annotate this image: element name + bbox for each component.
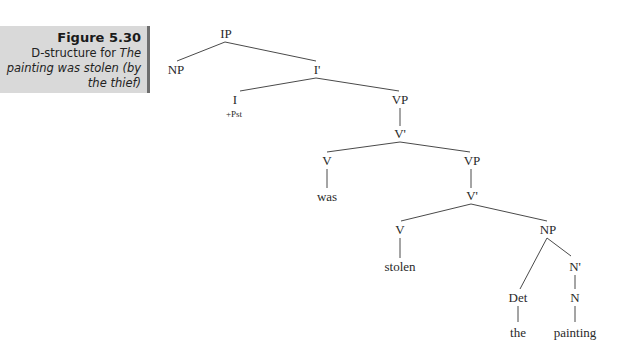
tree-node-np1: NP (168, 62, 185, 77)
tree-node-feat: +Pst (226, 109, 243, 119)
tree-node-vbar2: V' (466, 188, 478, 203)
tree-node-vbar1: V' (394, 126, 406, 141)
tree-node-the: the (510, 325, 526, 340)
tree-node-vp1: VP (392, 92, 409, 107)
tree-node-nbar: N' (569, 259, 581, 274)
tree-node-v1: V (322, 153, 332, 168)
tree-node-vp2: VP (464, 153, 481, 168)
tree-branch (547, 238, 571, 256)
tree-node-was: was (317, 189, 337, 204)
tree-branch (520, 238, 547, 289)
syntax-tree: IPNPI'I+PstVPV'VwasVPV'VstolenNPN'DetNth… (0, 0, 637, 347)
tree-node-ibar: I' (314, 62, 321, 77)
tree-node-det: Det (509, 290, 528, 305)
tree-node-n: N (570, 290, 580, 305)
tree-node-v2: V (395, 222, 405, 237)
tree-branch (177, 42, 225, 61)
tree-node-i: I (233, 92, 237, 107)
tree-branches (177, 42, 575, 322)
tree-branch (401, 204, 471, 221)
tree-node-painting: painting (554, 325, 597, 340)
tree-branch (240, 78, 316, 91)
tree-branch (225, 42, 316, 61)
tree-node-stolen: stolen (384, 259, 416, 274)
tree-nodes: IPNPI'I+PstVPV'VwasVPV'VstolenNPN'DetNth… (168, 26, 597, 340)
tree-branch (316, 78, 399, 91)
tree-branch (471, 204, 547, 221)
tree-branch (327, 142, 400, 152)
tree-node-np2: NP (540, 222, 557, 237)
tree-node-ip: IP (220, 26, 232, 41)
tree-branch (400, 142, 470, 152)
